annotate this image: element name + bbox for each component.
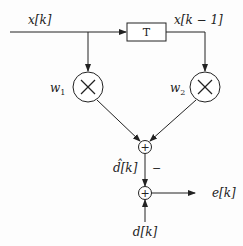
delayed-input-label: x[k − 1] xyxy=(174,13,223,27)
diagram-svg: x[k] T x[k − 1] w1 w2 + d̂[k] − + xyxy=(0,0,243,246)
delay-block-label: T xyxy=(143,26,151,39)
plus-icon: + xyxy=(140,187,149,200)
input-label: x[k] xyxy=(28,13,52,27)
minus-sign: − xyxy=(152,162,161,175)
plus-icon: + xyxy=(140,141,149,154)
w1-to-sum-line xyxy=(97,100,140,141)
weight1-label: w1 xyxy=(50,81,65,97)
delayed-signal-line xyxy=(166,32,205,71)
w2-to-sum-line xyxy=(150,100,196,141)
estimate-label: d̂[k] xyxy=(113,158,138,175)
adaptive-filter-diagram: x[k] T x[k − 1] w1 w2 + d̂[k] − + xyxy=(0,0,243,246)
error-label: e[k] xyxy=(212,186,236,200)
weight2-label: w2 xyxy=(170,81,185,97)
desired-label: d[k] xyxy=(133,225,158,239)
